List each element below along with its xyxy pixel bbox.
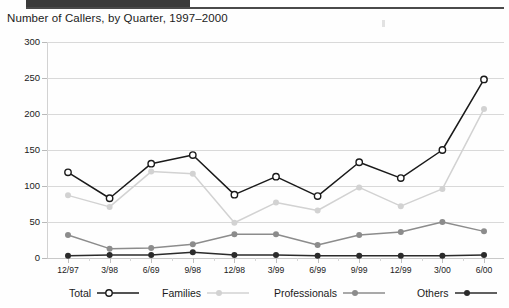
data-point-others-7 — [356, 253, 362, 259]
series-total — [65, 76, 487, 201]
data-point-professionals-1 — [107, 246, 113, 252]
y-axis-label-200: 200 — [0, 108, 40, 119]
data-point-families-5 — [273, 200, 279, 206]
series-professionals — [65, 219, 487, 252]
data-point-families-7 — [356, 184, 362, 190]
page-title: Number of Callers, by Quarter, 1997–2000 — [7, 12, 228, 24]
x-tick-4 — [234, 258, 235, 263]
data-point-others-0 — [65, 253, 71, 259]
data-point-professionals-0 — [65, 232, 71, 238]
header-rule — [26, 7, 504, 9]
data-point-families-4 — [231, 220, 237, 226]
data-point-professionals-7 — [356, 232, 362, 238]
chart-legend: TotalFamiliesProfessionalsOthers — [0, 283, 509, 305]
x-tick-minor-4 — [255, 258, 256, 261]
data-point-professionals-2 — [148, 245, 154, 251]
data-point-total-10 — [481, 76, 487, 82]
legend-item-professionals[interactable]: Professionals — [274, 283, 386, 303]
data-point-professionals-9 — [439, 219, 445, 225]
data-point-total-5 — [273, 173, 279, 179]
scan-artifact — [382, 20, 385, 27]
chart-page: Number of Callers, by Quarter, 1997–2000… — [0, 0, 509, 308]
data-point-families-8 — [398, 203, 404, 209]
series-others — [65, 249, 487, 259]
x-tick-minor-1 — [130, 258, 131, 261]
legend-item-total[interactable]: Total — [69, 283, 140, 303]
y-axis-label-250: 250 — [0, 72, 40, 83]
legend-marker-professionals-icon — [342, 287, 386, 299]
legend-label-professionals: Professionals — [274, 287, 337, 299]
x-tick-minor-9 — [463, 258, 464, 261]
x-tick-2 — [151, 258, 152, 263]
x-tick-minor-5 — [297, 258, 298, 261]
legend-marker-total-icon — [96, 287, 140, 299]
legend-item-others[interactable]: Others — [417, 283, 498, 303]
data-point-total-6 — [314, 193, 320, 199]
data-point-families-0 — [65, 192, 71, 198]
data-point-others-10 — [481, 252, 487, 258]
data-point-others-5 — [273, 252, 279, 258]
data-point-total-7 — [356, 159, 362, 165]
data-point-professionals-4 — [231, 231, 237, 237]
data-point-others-9 — [439, 253, 445, 259]
data-point-total-9 — [439, 147, 445, 153]
x-tick-minor-7 — [380, 258, 381, 261]
data-point-others-8 — [398, 253, 404, 259]
x-tick-1 — [110, 258, 111, 263]
legend-label-families: Families — [162, 287, 201, 299]
legend-marker-others-icon — [454, 287, 498, 299]
data-point-professionals-5 — [273, 231, 279, 237]
data-point-families-3 — [190, 171, 196, 177]
legend-marker-families-icon — [206, 287, 250, 299]
data-point-total-4 — [231, 191, 237, 197]
data-point-others-3 — [190, 249, 196, 255]
series-families — [65, 106, 487, 226]
data-point-others-4 — [231, 252, 237, 258]
legend-item-families[interactable]: Families — [162, 283, 250, 303]
data-point-professionals-8 — [398, 229, 404, 235]
data-point-professionals-3 — [190, 241, 196, 247]
x-tick-minor-6 — [338, 258, 339, 261]
header-dark-block — [26, 0, 190, 7]
x-tick-minor-8 — [422, 258, 423, 261]
x-tick-5 — [276, 258, 277, 263]
data-point-others-1 — [107, 252, 113, 258]
data-point-total-8 — [398, 175, 404, 181]
y-axis-label-300: 300 — [0, 36, 40, 47]
data-point-families-1 — [107, 204, 113, 210]
plot-area: 050100150200250300 12/973/986/699/9812/9… — [47, 42, 504, 258]
data-point-total-1 — [106, 195, 112, 201]
page-header-bar — [0, 0, 509, 9]
data-point-professionals-6 — [315, 242, 321, 248]
legend-label-others: Others — [417, 287, 449, 299]
data-point-professionals-10 — [481, 228, 487, 234]
data-point-total-3 — [190, 152, 196, 158]
y-axis-label-150: 150 — [0, 144, 40, 155]
x-tick-minor-2 — [172, 258, 173, 261]
data-point-total-2 — [148, 160, 154, 166]
x-tick-10 — [484, 258, 485, 263]
y-axis-label-50: 50 — [0, 216, 40, 227]
y-tick-0 — [42, 258, 47, 259]
x-tick-minor-0 — [89, 258, 90, 261]
data-point-total-0 — [65, 169, 71, 175]
data-point-families-2 — [148, 169, 154, 175]
legend-label-total: Total — [69, 287, 91, 299]
y-axis-label-0: 0 — [0, 252, 40, 263]
series-line-families — [68, 109, 484, 223]
data-point-families-6 — [315, 207, 321, 213]
series-layer — [47, 42, 504, 258]
data-point-families-9 — [439, 186, 445, 192]
x-tick-minor-3 — [214, 258, 215, 261]
y-axis-label-100: 100 — [0, 180, 40, 191]
data-point-others-2 — [148, 252, 154, 258]
x-axis-label-10: 6/00 — [459, 265, 509, 275]
data-point-others-6 — [315, 253, 321, 259]
data-point-families-10 — [481, 106, 487, 112]
x-tick-3 — [193, 258, 194, 263]
